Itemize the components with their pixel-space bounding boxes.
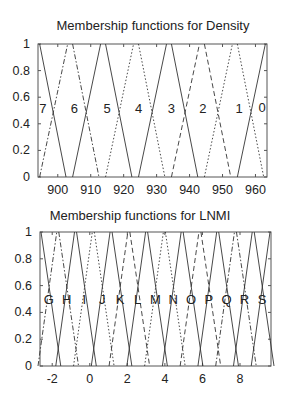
set-label: R	[240, 292, 249, 307]
set-label: 2	[199, 101, 206, 116]
set-label: S	[258, 292, 267, 307]
y-tick-label: 1	[23, 37, 30, 51]
set-label: M	[150, 292, 161, 307]
y-tick-label: 1	[25, 225, 32, 239]
set-label: 0	[258, 100, 265, 115]
set-label: Q	[222, 292, 232, 307]
set-label: 3	[168, 101, 175, 116]
membership-line	[77, 232, 97, 366]
set-label: O	[186, 292, 196, 307]
x-tick-label: 4	[161, 372, 168, 386]
membership-line	[204, 44, 230, 177]
x-tick-label: 930	[146, 183, 167, 197]
plot-area-density: 00.20.40.60.8190091092093094095096076543…	[13, 37, 267, 197]
y-tick-label: 0.2	[15, 332, 32, 346]
x-tick-label: 6	[199, 372, 206, 386]
y-tick-label: 0.4	[15, 305, 32, 319]
x-tick-label: 950	[212, 183, 233, 197]
y-tick-label: 0.6	[13, 90, 30, 104]
x-tick-label: -2	[47, 372, 58, 386]
set-label: 6	[71, 101, 78, 116]
x-tick-label: 2	[124, 372, 131, 386]
set-label: 7	[39, 101, 46, 116]
set-label: L	[134, 292, 141, 307]
set-label: 5	[104, 101, 111, 116]
y-tick-label: 0.8	[15, 252, 32, 266]
y-tick-label: 0	[23, 170, 30, 184]
set-label: K	[116, 292, 125, 307]
membership-line	[138, 44, 166, 177]
set-label: G	[44, 292, 54, 307]
x-tick-label: 900	[47, 183, 68, 197]
chart-title-lnmi: Membership functions for LNMI	[50, 208, 231, 223]
set-label: P	[204, 292, 213, 307]
set-label: I	[83, 292, 87, 307]
set-label: H	[62, 292, 71, 307]
y-tick-label: 0.6	[15, 279, 32, 293]
x-tick-label: 960	[245, 183, 266, 197]
set-label: N	[169, 292, 178, 307]
y-tick-label: 0	[25, 359, 32, 373]
set-label: 4	[135, 101, 142, 116]
x-tick-label: 0	[86, 372, 93, 386]
x-tick-label: 910	[80, 183, 101, 197]
y-tick-label: 0.4	[13, 117, 30, 131]
set-label: J	[99, 292, 106, 307]
charts-canvas: Membership functions for Density 00.20.4…	[0, 0, 287, 399]
set-label: 1	[235, 101, 242, 116]
y-tick-label: 0.8	[13, 64, 30, 78]
x-tick-label: 920	[113, 183, 134, 197]
x-tick-label: 940	[179, 183, 200, 197]
x-tick-label: 8	[237, 372, 244, 386]
plot-area-lnmi: 00.20.40.60.81-202468GHIJKLMNOPQRS	[15, 225, 274, 386]
y-tick-label: 0.2	[13, 143, 30, 157]
chart-title-density: Membership functions for Density	[57, 18, 250, 33]
